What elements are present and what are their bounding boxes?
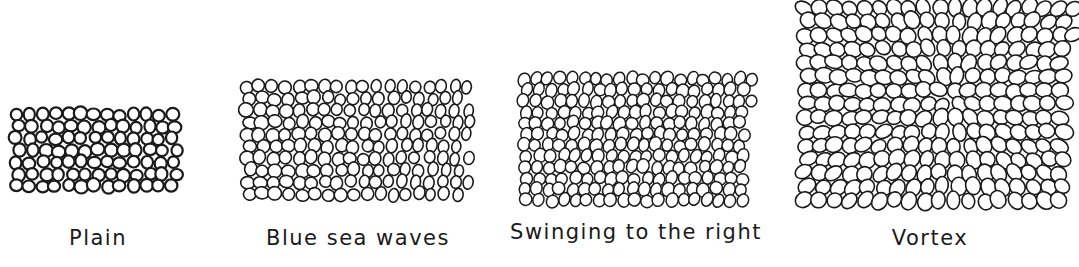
- label-swinging-right: Swinging to the right: [510, 220, 762, 244]
- label-plain: Plain: [69, 226, 127, 250]
- texture-panel-vortex: [797, 0, 1079, 210]
- texture-panel-plain: [10, 108, 185, 196]
- plain-cell-texture: [10, 108, 185, 196]
- texture-panel-swinging-right: [518, 73, 756, 201]
- label-blue-sea-waves: Blue sea waves: [266, 226, 450, 250]
- label-vortex: Vortex: [892, 226, 968, 250]
- swinging-right-cell-texture: [518, 73, 756, 201]
- texture-panel-blue-sea-waves: [240, 80, 475, 198]
- vortex-cell-texture: [797, 0, 1079, 210]
- blue-sea-waves-cell-texture: [240, 80, 475, 198]
